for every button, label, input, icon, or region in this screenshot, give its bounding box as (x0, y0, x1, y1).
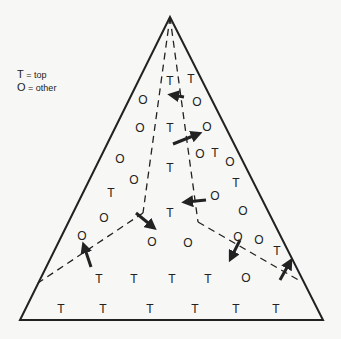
label-other: O (183, 236, 192, 250)
legend-item-other: O = other (17, 81, 56, 94)
arrow-icon (172, 95, 184, 97)
arrow-icon (186, 200, 206, 202)
arrow-icon (280, 262, 290, 280)
label-top: T (273, 244, 281, 258)
label-other: O (241, 271, 250, 285)
label-top: T (211, 146, 219, 160)
label-top: T (191, 302, 199, 316)
label-other: O (238, 204, 247, 218)
label-other: O (135, 121, 144, 135)
label-top: T (232, 176, 240, 190)
legend-text: top (34, 70, 47, 80)
arrow-icon (84, 246, 91, 267)
legend-eq: = (28, 83, 33, 93)
label-top: T (57, 302, 65, 316)
label-top: T (187, 72, 195, 86)
legend-key: O (17, 81, 26, 93)
label-other: O (129, 173, 138, 187)
legend-key: T (17, 68, 24, 80)
legend-eq: = (26, 70, 31, 80)
label-other: O (99, 211, 108, 225)
label-top: T (146, 302, 154, 316)
legend-item-top: T = top (17, 68, 56, 81)
label-top: T (99, 302, 107, 316)
label-top: T (130, 272, 138, 286)
movement-arrows (84, 95, 290, 280)
legend-text: other (36, 83, 57, 93)
label-other: O (195, 147, 204, 161)
label-other: O (233, 230, 242, 244)
label-other: O (254, 233, 263, 247)
label-top: T (168, 272, 176, 286)
label-other: O (210, 189, 219, 203)
arrow-icon (173, 134, 198, 144)
label-top: T (204, 272, 212, 286)
label-other: O (225, 155, 234, 169)
label-top: T (232, 302, 240, 316)
label-top: T (166, 206, 174, 220)
label-top: T (166, 121, 174, 135)
label-top: T (107, 186, 115, 200)
label-top: T (166, 74, 174, 88)
label-top: T (272, 302, 280, 316)
label-other: O (77, 229, 86, 243)
ternary-diagram: TTOOOTOTOTOOOTTOOOTOOOOOTTTTTOTTTTTT (0, 0, 341, 339)
label-top: T (166, 161, 174, 175)
point-labels: TTOOOTOTOTOOOTTOOOTOOOOOTTTTTOTTTTTT (57, 72, 281, 316)
legend: T = top O = other (17, 68, 56, 94)
label-other: O (138, 93, 147, 107)
label-other: O (192, 95, 201, 109)
label-other: O (115, 152, 124, 166)
arrow-icon (136, 213, 153, 227)
label-top: T (95, 272, 103, 286)
label-other: O (202, 120, 211, 134)
label-other: O (147, 235, 156, 249)
